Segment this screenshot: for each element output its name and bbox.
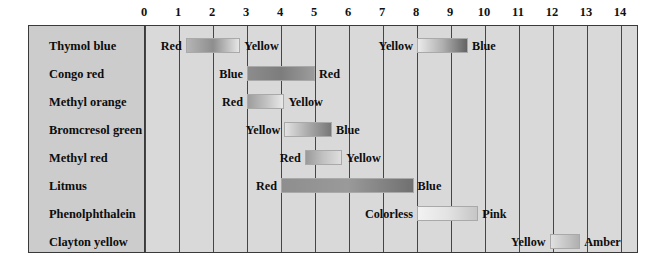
indicator-name-thymol-blue: Thymol blue	[49, 32, 116, 60]
transition-band	[186, 38, 240, 53]
axis-tick-label-3: 3	[243, 5, 249, 19]
axis-tick-label-7: 7	[379, 5, 385, 19]
axis-tick-label-14: 14	[614, 5, 627, 19]
indicator-row-label-wrap: Phenolphthalein	[29, 200, 144, 228]
acid-color-label: Red	[280, 144, 305, 172]
transition-band	[305, 150, 342, 165]
acid-color-label: Colorless	[365, 200, 417, 228]
indicator-row-thymol-blue: RedYellowYellowBlue	[145, 32, 637, 60]
indicator-row-label-wrap: Litmus	[29, 172, 144, 200]
axis-tick-label-11: 11	[512, 5, 524, 19]
base-color-label: Blue	[468, 32, 496, 60]
transition-band	[550, 234, 581, 249]
indicator-row-methyl-orange: RedYellow	[145, 88, 637, 116]
transition-band	[281, 178, 414, 193]
transition-band	[417, 206, 478, 221]
indicator-name-congo-red: Congo red	[49, 60, 104, 88]
axis-tick-label-8: 8	[413, 5, 419, 19]
indicator-label-column: Thymol blueCongo redMethyl orangeBromcre…	[29, 26, 145, 252]
axis-tick-label-6: 6	[345, 5, 351, 19]
indicator-row-label-wrap: Thymol blue	[29, 32, 144, 60]
axis-tick-label-1: 1	[175, 5, 181, 19]
indicator-row-litmus: RedBlue	[145, 172, 637, 200]
axis-tick-label-4: 4	[277, 5, 283, 19]
base-color-label: Pink	[478, 200, 506, 228]
base-color-label: Yellow	[342, 144, 381, 172]
axis-tick-label-13: 13	[580, 5, 593, 19]
axis-tick-label-2: 2	[209, 5, 215, 19]
indicator-name-methyl-red: Methyl red	[49, 144, 108, 172]
axis-tick-label-12: 12	[546, 5, 559, 19]
indicator-row-methyl-red: RedYellow	[145, 144, 637, 172]
indicator-row-label-wrap: Methyl red	[29, 144, 144, 172]
indicator-row-label-wrap: Congo red	[29, 60, 144, 88]
acid-color-label: Red	[256, 172, 281, 200]
acid-color-label: Yellow	[511, 228, 550, 252]
indicator-row-congo-red: BlueRed	[145, 60, 637, 88]
indicator-row-bromcresol-green: YellowBlue	[145, 116, 637, 144]
base-color-label: Yellow	[240, 32, 279, 60]
transition-band	[284, 122, 332, 137]
indicator-row-phenolphthalein: ColorlessPink	[145, 200, 637, 228]
indicator-row-label-wrap: Bromcresol green	[29, 116, 144, 144]
indicator-name-methyl-orange: Methyl orange	[49, 88, 126, 116]
base-color-label: Yellow	[284, 88, 323, 116]
transition-band	[247, 94, 284, 109]
base-color-label: Blue	[332, 116, 360, 144]
acid-color-label: Red	[222, 88, 247, 116]
ph-indicator-chart: 01234567891011121314 Thymol blueCongo re…	[0, 0, 665, 278]
plot-area: RedYellowYellowBlueBlueRedRedYellowYello…	[145, 26, 637, 252]
axis-tick-label-5: 5	[311, 5, 317, 19]
transition-band	[247, 66, 315, 81]
indicator-row-clayton-yellow: YellowAmber	[145, 228, 637, 252]
base-color-label: Red	[315, 60, 340, 88]
chart-frame: Thymol blueCongo redMethyl orangeBromcre…	[28, 25, 638, 253]
base-color-label: Amber	[580, 228, 621, 252]
acid-color-label: Red	[161, 32, 186, 60]
indicator-name-phenolphthalein: Phenolphthalein	[49, 200, 136, 228]
axis-tick-label-9: 9	[447, 5, 453, 19]
ph-axis: 01234567891011121314	[0, 0, 665, 28]
axis-tick-label-0: 0	[141, 5, 147, 19]
transition-band	[417, 38, 468, 53]
axis-tick-label-10: 10	[478, 5, 491, 19]
indicator-name-litmus: Litmus	[49, 172, 87, 200]
indicator-name-bromcresol-green: Bromcresol green	[49, 116, 142, 144]
indicator-row-label-wrap: Clayton yellow	[29, 228, 144, 256]
acid-color-label: Blue	[219, 60, 247, 88]
acid-color-label: Yellow	[246, 116, 285, 144]
indicator-row-label-wrap: Methyl orange	[29, 88, 144, 116]
base-color-label: Blue	[414, 172, 442, 200]
acid-color-label: Yellow	[378, 32, 417, 60]
indicator-name-clayton-yellow: Clayton yellow	[49, 228, 128, 256]
